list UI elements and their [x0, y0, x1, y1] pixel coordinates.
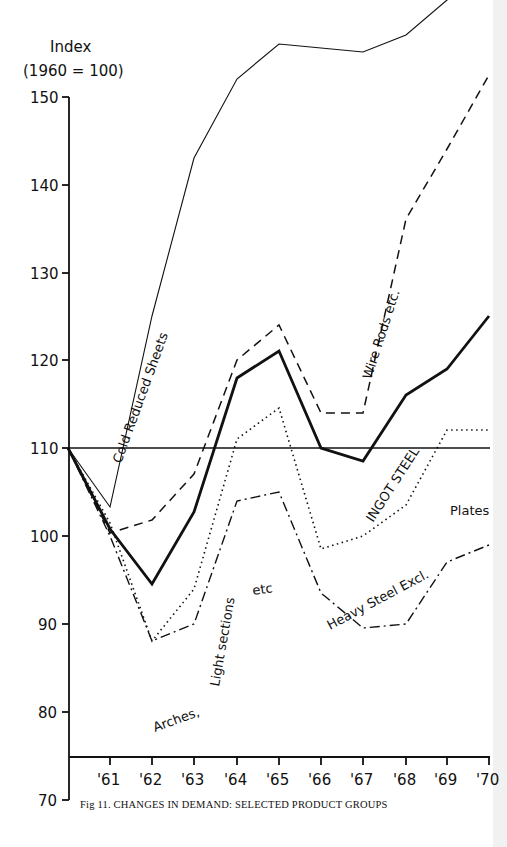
series-arches-light-sections	[68, 448, 489, 641]
label-light-sections: Light sections	[207, 596, 237, 688]
x-tick-label: '67	[350, 771, 373, 789]
figure-caption: Fig 11. CHANGES IN DEMAND: SELECTED PROD…	[80, 799, 388, 810]
series-wire-rods	[68, 75, 489, 533]
y-tick-label: 140	[30, 177, 59, 195]
y-tick-label: 70	[38, 792, 57, 810]
label-etc: etc	[251, 580, 273, 598]
x-axis	[69, 757, 490, 765]
y-tick-label: 100	[30, 528, 59, 546]
y-tick-label: 110	[30, 440, 59, 458]
x-tick-label: '69	[434, 771, 457, 789]
y-tick-labels: 150 140 130 120 110 100 90 80 70	[30, 89, 59, 810]
x-tick-label: '61	[97, 771, 120, 789]
x-tick-label: '66	[308, 771, 331, 789]
x-tick-labels: '61 '62 '63 '64 '65 '66 '67 '68 '69 '70	[97, 771, 499, 789]
label-heavy-steel: Heavy Steel Excl.	[324, 566, 431, 632]
y-tick-label: 150	[30, 89, 59, 107]
x-tick-label: '65	[266, 771, 289, 789]
x-tick-label: '70	[476, 771, 499, 789]
y-axis-subtitle: (1960 = 100)	[23, 62, 124, 80]
x-tick-label: '68	[393, 771, 416, 789]
y-tick-label: 120	[30, 352, 59, 370]
line-chart: Index (1960 = 100) 150 140 130 120 110 1…	[0, 0, 507, 847]
x-tick-label: '64	[224, 771, 247, 789]
x-tick-label: '62	[139, 771, 162, 789]
label-plates: Plates	[450, 503, 490, 518]
y-tick-label: 90	[38, 616, 57, 634]
y-tick-label: 80	[38, 704, 57, 722]
y-tick-label: 130	[30, 265, 59, 283]
x-tick-label: '63	[181, 771, 204, 789]
label-ingot-steel: INGOT STEEL	[363, 444, 423, 525]
label-cold-reduced-sheets: Cold Reduced Sheets	[110, 330, 171, 465]
label-arches: Arches,	[151, 704, 201, 735]
y-axis-title: Index	[50, 38, 91, 56]
series-ingot-steel	[68, 316, 489, 584]
label-wire-rods: Wire Rods etc.	[360, 288, 403, 381]
